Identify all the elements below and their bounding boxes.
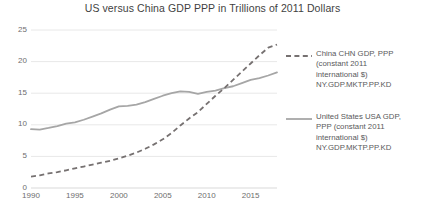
plot-area: [31, 30, 277, 188]
x-axis-tick-label: 1995: [55, 191, 95, 200]
y-axis-tick-label: 20: [5, 57, 27, 65]
y-axis-tick-label: 25: [5, 26, 27, 34]
legend-item-united-states[interactable]: United States USA GDP, PPP (constant 201…: [286, 112, 401, 154]
legend-solid-line-icon: [286, 114, 312, 124]
legend-dashed-line-icon: [286, 51, 312, 61]
gdp-ppp-line-chart: US versus China GDP PPP in Trillions of …: [0, 0, 425, 218]
legend-label-united-states: United States USA GDP, PPP (constant 201…: [312, 112, 401, 154]
x-axis-tick-label: 2005: [143, 191, 183, 200]
gridlines: [31, 30, 277, 188]
chart-title: US versus China GDP PPP in Trillions of …: [0, 2, 425, 14]
legend-label-china: China CHN GDP, PPP (constant 2011 intern…: [312, 49, 393, 91]
x-axis-tick-label: 2000: [99, 191, 139, 200]
plot-canvas: [31, 30, 277, 188]
x-axis: 1990 1995 2000 2005 2010 2015: [31, 191, 277, 207]
x-axis-tick-label: 2010: [187, 191, 227, 200]
y-axis-tick-label: 5: [5, 152, 27, 160]
x-axis-tick-label: 1990: [11, 191, 51, 200]
y-axis: 25 20 15 10 5 0: [0, 0, 27, 218]
x-axis-tick-label: 2015: [231, 191, 271, 200]
series-line-united-states: [31, 72, 277, 129]
y-axis-tick-label: 15: [5, 89, 27, 97]
legend-item-china[interactable]: China CHN GDP, PPP (constant 2011 intern…: [286, 49, 393, 91]
y-axis-tick-label: 10: [5, 120, 27, 128]
